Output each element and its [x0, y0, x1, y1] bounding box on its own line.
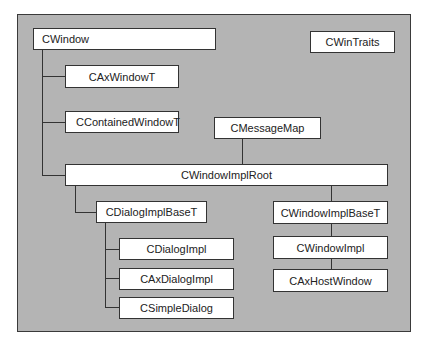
node-label: CDialogImpl — [147, 243, 207, 255]
node-ccontainedwindowt: CContainedWindowT — [65, 111, 179, 133]
connector-to-cdialogimplbaset — [75, 212, 96, 213]
node-csimpledialog: CSimpleDialog — [119, 297, 234, 319]
node-label: CWindowImpl — [297, 242, 365, 254]
connector-to-caxdialogimpl — [105, 278, 119, 279]
node-label: CMessageMap — [231, 122, 305, 134]
node-cmessagemap: CMessageMap — [214, 117, 321, 139]
node-label: CWindowImplBaseT — [281, 207, 381, 219]
node-label: CWindow — [42, 33, 89, 45]
node-cwindowimplbaset: CWindowImplBaseT — [273, 201, 388, 224]
connector-to-caxwindowt — [42, 76, 65, 77]
node-label: CAxWindowT — [89, 71, 156, 83]
connector-cmessagemap-down — [242, 139, 243, 164]
node-label: CWinTraits — [326, 36, 380, 48]
node-label: CWindowImplRoot — [181, 169, 272, 181]
node-cwindowimpl: CWindowImpl — [273, 236, 388, 259]
connector-windowbase-to-windowimpl — [331, 224, 332, 236]
connector-to-cwindowimplroot — [42, 175, 65, 176]
node-label: CAxHostWindow — [289, 275, 372, 287]
node-label: CAxDialogImpl — [140, 273, 213, 285]
connector-to-csimpledialog — [105, 307, 119, 308]
connector-dialog-trunk — [105, 223, 106, 308]
connector-root-to-windowbase — [331, 186, 332, 201]
connector-to-ccontainedwindowt — [42, 122, 65, 123]
connector-windowimpl-to-axhost — [331, 259, 332, 269]
node-cwindowimplroot: CWindowImplRoot — [65, 164, 388, 186]
node-label: CSimpleDialog — [140, 302, 213, 314]
node-caxwindowt: CAxWindowT — [65, 65, 179, 88]
node-caxdialogimpl: CAxDialogImpl — [119, 268, 234, 290]
node-label: CDialogImplBaseT — [106, 206, 198, 218]
connector-to-cdialogimpl — [105, 249, 119, 250]
node-caxhostwindow: CAxHostWindow — [273, 269, 388, 292]
node-cdialogimplbaset: CDialogImplBaseT — [96, 201, 207, 223]
node-cwintraits: CWinTraits — [310, 31, 395, 53]
node-label: CContainedWindowT — [76, 116, 180, 128]
node-cwindow: CWindow — [33, 28, 216, 50]
connector-root-to-dialogbase — [75, 186, 76, 213]
connector-cwindow-trunk — [42, 50, 43, 175]
node-cdialogimpl: CDialogImpl — [119, 238, 234, 260]
